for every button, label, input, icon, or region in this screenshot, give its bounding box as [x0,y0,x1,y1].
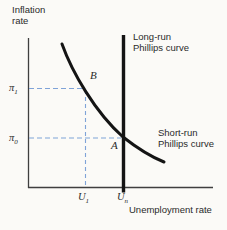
pi1-subscript: 1 [14,88,18,96]
un-subscript: n [125,197,129,205]
u1-symbol: U [78,191,86,202]
un-symbol: U [117,191,125,202]
long-run-curve-label-line1: Long-run [133,31,189,42]
tick-label-un: Un [117,191,128,202]
short-run-curve-label-line1: Short-run [158,127,214,138]
long-run-curve-label: Long-run Phillips curve [133,31,189,53]
short-run-curve-label-line2: Phillips curve [158,138,214,149]
plot-canvas [0,0,227,230]
u1-subscript: 1 [86,197,90,205]
x-axis-label: Unemployment rate [129,204,212,215]
short-run-curve-label: Short-run Phillips curve [158,127,214,149]
tick-label-pi0: π0 [9,132,18,143]
tick-label-u1: U1 [78,191,89,202]
point-label-b: B [90,70,97,81]
point-label-a: A [111,140,118,151]
tick-label-pi1: π1 [9,82,18,93]
pi0-subscript: 0 [14,138,18,146]
y-axis-label-line1: Inflation [12,4,45,15]
y-axis-label-line2: rate [12,15,45,26]
long-run-curve-label-line2: Phillips curve [133,42,189,53]
phillips-curve-figure: Inflation rate Unemployment rate Long-ru… [0,0,227,230]
y-axis-label: Inflation rate [12,4,45,26]
